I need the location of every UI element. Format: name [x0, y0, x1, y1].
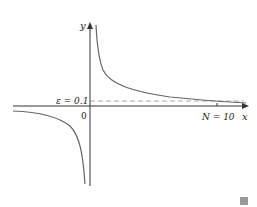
curve-left-branch — [13, 111, 85, 184]
y-axis-label: y — [79, 20, 86, 31]
curve-right-branch — [96, 25, 246, 103]
epsilon-label: ε = 0.1 — [56, 96, 88, 106]
y-axis-arrow-icon — [87, 22, 93, 29]
x-axis-label: x — [242, 111, 248, 122]
chart: y x 0 ε = 0.1 N = 10 — [0, 0, 257, 207]
x-axis-arrow-icon — [242, 103, 249, 109]
end-marker-icon — [240, 197, 248, 205]
origin-label: 0 — [81, 111, 87, 121]
n-label: N = 10 — [201, 112, 235, 122]
